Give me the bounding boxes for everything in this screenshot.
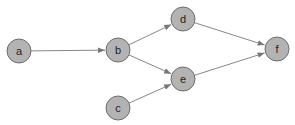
node-label: a [16,45,23,57]
node-f: f [265,37,289,61]
node-d: d [171,7,195,31]
edge-d-f [194,23,264,45]
edge-b-e [129,55,171,74]
edge-e-f [194,53,264,75]
node-c: c [106,96,130,120]
node-label: c [115,102,121,114]
edge-b-d [129,25,171,45]
node-e: e [171,67,195,91]
node-label: d [180,13,186,25]
node-label: b [115,44,121,56]
directed-graph: abcdef [0,0,295,125]
node-b: b [106,38,130,62]
node-a: a [7,39,31,63]
node-label: e [180,73,186,85]
edge-a-b [31,50,105,51]
edge-c-e [129,84,171,103]
edges [31,23,265,103]
